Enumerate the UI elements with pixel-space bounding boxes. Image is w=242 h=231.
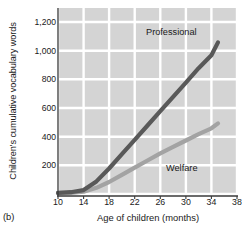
y-tick-800: 800 xyxy=(22,74,56,84)
y-tick-1000: 1,000 xyxy=(22,46,56,56)
x-tick-26: 26 xyxy=(148,197,172,207)
panel-caption: (b) xyxy=(3,211,14,222)
chart-figure: 1,200 1,000 800 600 400 200 10 14 18 22 … xyxy=(0,0,242,231)
y-tick-600: 600 xyxy=(22,103,56,113)
x-axis-title: Age of children (months) xyxy=(58,212,238,223)
y-tick-200: 200 xyxy=(22,160,56,170)
series-label-professional: Professional xyxy=(146,27,197,37)
series-label-welfare: Welfare xyxy=(166,163,198,173)
x-tick-10: 10 xyxy=(46,197,70,207)
x-tick-30: 30 xyxy=(174,197,198,207)
x-tick-14: 14 xyxy=(72,197,96,207)
x-tick-22: 22 xyxy=(123,197,147,207)
y-axis-title: Children's cumulative vocabulary words xyxy=(8,4,18,198)
y-tick-400: 400 xyxy=(22,132,56,142)
x-tick-34: 34 xyxy=(199,197,223,207)
x-tick-18: 18 xyxy=(97,197,121,207)
x-tick-38: 38 xyxy=(225,197,242,207)
y-tick-1200: 1,200 xyxy=(22,17,56,27)
